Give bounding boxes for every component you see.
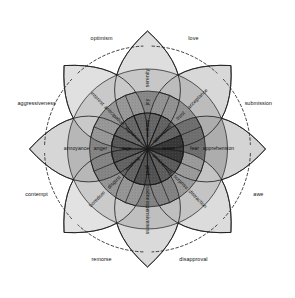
dyad-label-love: love	[188, 35, 198, 41]
petal-label-mild-anger: annoyance	[64, 145, 89, 151]
petal-label-basic-fear: fear	[190, 145, 199, 151]
petal-label-mild-joy: serenity	[144, 68, 150, 87]
petal-label-intense-fear: terror	[162, 145, 175, 151]
petal-label-basic-joy: joy	[144, 98, 150, 106]
plutchik-wheel-diagram: ecstasyjoyserenityadmirationtrustaccepta…	[0, 0, 295, 298]
dyad-label-optimism: optimism	[91, 35, 113, 41]
dyad-label-remorse: remorse	[92, 256, 112, 262]
wheel-canvas: ecstasyjoyserenityadmirationtrustaccepta…	[0, 0, 295, 298]
dyad-label-disapproval: disapproval	[179, 256, 207, 262]
petal-label-mild-sadness: pensiveness	[145, 206, 151, 235]
dyad-label-submission: submission	[245, 100, 272, 106]
petal-label-basic-anger: anger	[94, 145, 108, 151]
dyad-label-contempt: contempt	[25, 191, 48, 197]
petal-label-intense-joy: ecstasy	[144, 119, 150, 137]
petal-label-intense-sadness: grief	[145, 165, 151, 176]
petal-label-intense-anger: rage	[121, 145, 131, 151]
petal-label-basic-sadness: sadness	[145, 186, 151, 206]
petal-label-mild-fear: apprehension	[203, 145, 235, 151]
dyad-label-awe: awe	[253, 191, 263, 197]
dyad-label-aggressiveness: aggressiveness	[18, 100, 56, 106]
